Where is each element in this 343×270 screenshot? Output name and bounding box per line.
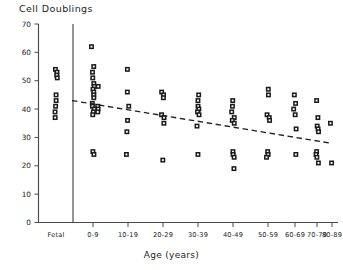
data-point [268, 119, 271, 122]
svg-text:30-39: 30-39 [188, 231, 208, 239]
data-point [294, 127, 297, 130]
x-axis-label: Age (years) [0, 250, 343, 260]
svg-text:60: 60 [22, 48, 32, 57]
data-point [91, 113, 94, 116]
data-point [330, 161, 333, 164]
svg-text:80-89: 80-89 [322, 231, 342, 239]
data-point [92, 153, 95, 156]
data-point [126, 119, 129, 122]
svg-text:0-9: 0-9 [87, 231, 98, 239]
data-point [96, 85, 99, 88]
data-point [231, 99, 234, 102]
data-point [195, 124, 198, 127]
data-point [233, 122, 236, 125]
data-point [125, 130, 128, 133]
svg-text:10-19: 10-19 [118, 231, 138, 239]
plot-svg: 010203040506070 Fetal0-910-1920-2930-394… [0, 0, 343, 270]
data-point [161, 158, 164, 161]
data-point [90, 45, 93, 48]
svg-text:10: 10 [22, 190, 32, 199]
data-point [92, 96, 95, 99]
data-point [315, 99, 318, 102]
x-axis-ticks: Fetal0-910-1920-2930-3940-4950-5960-6970… [48, 223, 343, 240]
data-point [317, 130, 320, 133]
data-point [196, 153, 199, 156]
data-points [53, 45, 333, 170]
svg-text:50: 50 [22, 76, 32, 85]
svg-text:60-69: 60-69 [285, 231, 305, 239]
data-point [196, 99, 199, 102]
data-point [96, 110, 99, 113]
data-point [232, 156, 235, 159]
data-point [91, 71, 94, 74]
y-axis-ticks: 010203040506070 [22, 20, 39, 228]
data-point [92, 65, 95, 68]
data-point [54, 93, 57, 96]
data-point [53, 110, 56, 113]
svg-text:Fetal: Fetal [48, 231, 65, 239]
data-point [292, 107, 295, 110]
svg-text:50-59: 50-59 [258, 231, 278, 239]
svg-text:20: 20 [22, 161, 32, 170]
svg-text:70: 70 [22, 20, 32, 29]
data-point [231, 105, 234, 108]
data-point [232, 167, 235, 170]
svg-text:20-29: 20-29 [153, 231, 173, 239]
data-point [294, 153, 297, 156]
data-point [91, 76, 94, 79]
data-point [267, 88, 270, 91]
data-point [294, 102, 297, 105]
data-point [315, 156, 318, 159]
data-point [162, 96, 165, 99]
data-point [317, 161, 320, 164]
svg-text:30: 30 [22, 133, 32, 142]
data-point [293, 93, 296, 96]
data-point [126, 90, 129, 93]
data-point [125, 153, 128, 156]
data-point [127, 105, 130, 108]
data-point [329, 122, 332, 125]
data-point [316, 116, 319, 119]
svg-text:0: 0 [26, 218, 31, 227]
data-point [265, 156, 268, 159]
data-point [162, 122, 165, 125]
data-point [54, 99, 57, 102]
data-point [54, 105, 57, 108]
data-point [197, 113, 200, 116]
svg-text:40: 40 [22, 105, 32, 114]
data-point [230, 110, 233, 113]
data-point [197, 93, 200, 96]
data-point [56, 76, 59, 79]
svg-text:40-49: 40-49 [223, 231, 243, 239]
data-point [293, 113, 296, 116]
data-point [267, 93, 270, 96]
data-point [53, 116, 56, 119]
chart-figure: Cell Doublings 010203040506070 Fetal0-91… [0, 0, 343, 270]
data-point [126, 68, 129, 71]
